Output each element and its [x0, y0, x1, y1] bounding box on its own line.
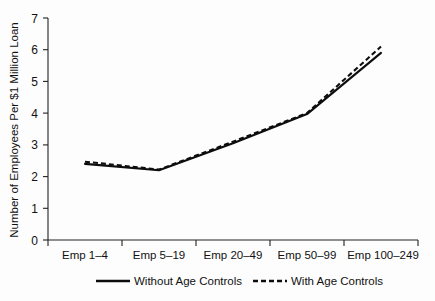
legend-label-1: With Age Controls [291, 275, 383, 287]
x-category-label-3: Emp 50–99 [278, 249, 337, 261]
chart-legend: Without Age Controls With Age Controls [96, 275, 383, 287]
y-tick-label-4: 4 [31, 107, 38, 121]
line-chart-canvas: Number of Employees Per $1 Million Loan … [0, 0, 435, 301]
x-category-label-1: Emp 5–19 [133, 249, 185, 261]
x-category-label-0: Emp 1–4 [62, 249, 109, 261]
y-axis-title: Number of Employees Per $1 Million Loan [8, 22, 20, 237]
series-line-with-age-controls [85, 47, 381, 170]
y-tick-label-3: 3 [31, 138, 38, 152]
y-tick-label-6: 6 [31, 43, 38, 57]
chart-figure: Number of Employees Per $1 Million Loan … [0, 0, 435, 301]
y-axis-title-text: Number of Employees Per $1 Million Loan [8, 22, 20, 237]
y-tick-label-7: 7 [31, 12, 38, 26]
y-tick-label-2: 2 [31, 170, 38, 184]
x-category-label-2: Emp 20–49 [204, 249, 263, 261]
x-axis-category-labels: Emp 1–4 Emp 5–19 Emp 20–49 Emp 50–99 Emp… [62, 249, 419, 261]
x-category-label-4: Emp 100–249 [347, 249, 419, 261]
legend-label-0: Without Age Controls [134, 275, 242, 287]
y-axis-ticks: 0 1 2 3 4 5 6 7 [31, 12, 48, 248]
series-line-without-age-controls [85, 53, 381, 170]
y-tick-label-0: 0 [31, 234, 38, 248]
x-axis-ticks [48, 240, 418, 246]
y-tick-label-1: 1 [31, 202, 38, 216]
y-tick-label-5: 5 [31, 75, 38, 89]
